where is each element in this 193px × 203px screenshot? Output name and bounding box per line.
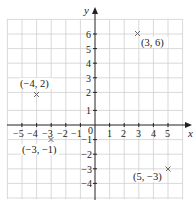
coordinate-plane: y x −5 −4 −3 −2 −1 1 2 3 4 5 0 6 5 4 3 2… [0,0,193,203]
point-label: (−4, 2) [20,78,49,90]
y-tick-label: −3 [81,164,92,175]
point-label: (−3, −1) [22,144,57,156]
x-tick-label: 1 [107,128,112,139]
y-axis-arrow-icon [92,7,98,14]
point-marker-icon [135,31,140,36]
x-axis-label: x [187,127,193,139]
x-tick-label: −1 [71,128,82,139]
y-tick-label: 5 [86,44,91,55]
y-tick-label: 3 [86,73,91,84]
y-axis-label: y [83,4,89,16]
y-tick-label: −2 [81,149,92,160]
y-tick-label: 1 [86,105,91,116]
x-tick-label: −3 [42,128,53,139]
y-tick-label: −4 [81,178,92,189]
point-label: (3, 6) [141,37,164,49]
x-tick-label: 4 [151,128,156,139]
x-tick-label: 2 [121,128,126,139]
point-label: (5, −3) [133,171,162,183]
y-tick-label: 6 [86,29,91,40]
x-tick-label: −4 [27,128,38,139]
y-tick-label: 4 [86,58,91,69]
x-tick-label: −5 [13,128,24,139]
x-tick-label: 5 [165,128,170,139]
y-tick-label: 2 [86,87,91,98]
x-tick-label: −2 [57,128,68,139]
x-tick-label: 3 [136,128,141,139]
y-tick-labels: 6 5 4 3 2 1 −1 −2 −3 −4 [81,29,92,189]
y-tick-label: −1 [81,134,92,145]
